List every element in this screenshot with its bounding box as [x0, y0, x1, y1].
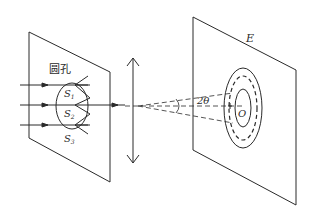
aperture-plate [29, 32, 110, 182]
source-s1-label: S1 [64, 88, 75, 100]
incident-rays [20, 83, 125, 127]
aperture-label: 圆孔 [49, 63, 71, 76]
aperture-hole [56, 83, 88, 129]
diffraction-diagram: S1 S2 S3 圆孔 2θ E O [0, 0, 316, 219]
diffraction-cone [125, 93, 243, 123]
screen-label: E [245, 32, 254, 45]
angle-label: 2θ [196, 95, 209, 106]
source-s2-label: S2 [64, 108, 75, 120]
source-s3-label: S3 [64, 133, 75, 145]
lens [127, 58, 139, 163]
center-label: O [238, 108, 246, 119]
source-labels: S1 S2 S3 [64, 88, 75, 145]
